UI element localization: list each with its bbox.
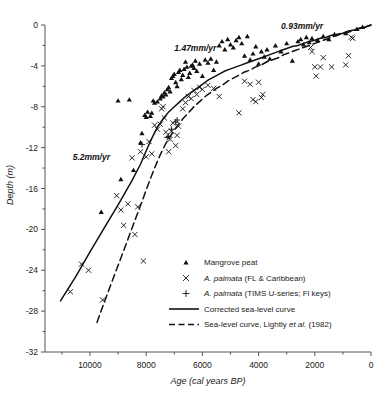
y-tick-label: -16 xyxy=(26,184,39,194)
y-tick-label: -12 xyxy=(26,143,39,153)
legend-label: Sea-level curve, Lightly et al. (1982) xyxy=(204,320,332,329)
x-tick-label: 4000 xyxy=(249,360,268,370)
x-axis-label: Age (cal years BP) xyxy=(169,376,245,386)
y-tick-label: -32 xyxy=(26,347,39,357)
rate-annotation: 0.93mm/yr xyxy=(281,21,324,31)
y-tick-label: 0 xyxy=(33,20,38,30)
x-tick-label: 8000 xyxy=(137,360,156,370)
y-tick-label: -24 xyxy=(26,265,39,275)
sea-level-chart: 0-4-8-12-16-20-24-28-3210000800060004000… xyxy=(0,0,391,402)
figure-container: 0-4-8-12-16-20-24-28-3210000800060004000… xyxy=(0,0,391,402)
y-tick-label: -28 xyxy=(26,306,39,316)
x-tick-label: 10000 xyxy=(78,360,102,370)
y-axis-label: Depth (m) xyxy=(5,165,15,205)
legend-label: Corrected sea-level curve xyxy=(204,305,296,314)
y-tick-label: -20 xyxy=(26,224,39,234)
x-tick-label: 6000 xyxy=(193,360,212,370)
y-tick-label: -4 xyxy=(30,61,38,71)
legend-label: A. palmata (TIMS U-series; Fl keys) xyxy=(203,289,331,298)
x-tick-label: 2000 xyxy=(305,360,324,370)
rate-annotation: 1.47mm/yr xyxy=(174,43,217,53)
legend-label: Mangrove peat xyxy=(204,258,258,267)
legend-label: A. palmata (FL & Caribbean) xyxy=(203,274,306,283)
y-tick-label: -8 xyxy=(30,102,38,112)
x-tick-label: 0 xyxy=(369,360,374,370)
rate-annotation: 5.2mm/yr xyxy=(73,152,111,162)
